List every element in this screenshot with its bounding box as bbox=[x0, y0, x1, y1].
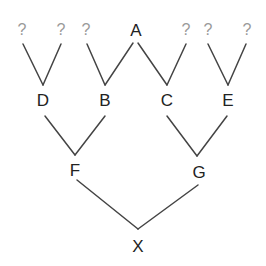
edge-unknown1-d bbox=[23, 44, 43, 85]
unknown-ancestor-6: ? bbox=[243, 21, 252, 38]
edge-unknown3-b bbox=[87, 44, 105, 85]
node-b: B bbox=[99, 91, 110, 110]
unknown-ancestor-1: ? bbox=[18, 21, 27, 38]
node-c: C bbox=[161, 91, 173, 110]
edge-d-f bbox=[45, 116, 75, 155]
edge-unknown2-d bbox=[43, 44, 61, 85]
edge-unknown4-c bbox=[167, 44, 186, 85]
edge-b-f bbox=[75, 116, 105, 155]
node-d: D bbox=[37, 91, 49, 110]
edge-c-g bbox=[167, 116, 197, 156]
edge-e-g bbox=[197, 116, 227, 156]
node-x: X bbox=[132, 237, 143, 256]
edges bbox=[23, 43, 246, 229]
node-g: G bbox=[192, 163, 205, 182]
edge-unknown5-e bbox=[208, 44, 228, 85]
unknown-ancestor-5: ? bbox=[204, 21, 213, 38]
unknown-ancestor-4: ? bbox=[182, 21, 191, 38]
edge-unknown6-e bbox=[228, 44, 246, 85]
edge-a-b bbox=[105, 43, 133, 85]
edge-f-x bbox=[77, 180, 138, 229]
named-nodes: A D B C E F G X bbox=[37, 21, 234, 256]
unknown-ancestor-2: ? bbox=[57, 21, 66, 38]
edge-a-c bbox=[138, 43, 167, 85]
family-tree-diagram: ? ? ? ? ? ? A D B C E F G X bbox=[0, 0, 266, 266]
node-e: E bbox=[222, 91, 233, 110]
node-a: A bbox=[130, 21, 142, 40]
unknown-ancestor-3: ? bbox=[82, 21, 91, 38]
node-f: F bbox=[70, 161, 80, 180]
edge-g-x bbox=[138, 185, 198, 229]
